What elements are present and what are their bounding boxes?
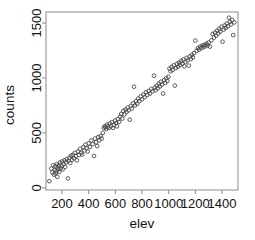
x-tick-label: 1200 bbox=[181, 196, 210, 211]
scatter-plot-figure: 200400600800100012001400 050010001500 el… bbox=[0, 0, 255, 240]
y-tick-label: 500 bbox=[30, 122, 45, 144]
y-tick-label: 0 bbox=[30, 184, 45, 191]
data-point bbox=[161, 92, 165, 96]
x-tick-label: 600 bbox=[104, 196, 126, 211]
y-axis-ticks bbox=[42, 23, 46, 188]
data-points-layer bbox=[47, 16, 236, 183]
data-point bbox=[221, 40, 225, 44]
y-axis-title: counts bbox=[2, 85, 17, 125]
data-point bbox=[173, 84, 177, 88]
data-point bbox=[92, 154, 96, 158]
data-point bbox=[47, 179, 51, 183]
x-tick-label: 800 bbox=[131, 196, 153, 211]
data-point bbox=[231, 33, 235, 37]
data-point bbox=[187, 64, 191, 68]
data-point bbox=[55, 175, 59, 179]
data-point bbox=[193, 39, 197, 43]
data-point bbox=[232, 21, 236, 25]
data-point bbox=[66, 177, 70, 181]
x-tick-label: 1000 bbox=[154, 196, 183, 211]
data-point bbox=[132, 85, 136, 89]
y-axis-tick-labels: 050010001500 bbox=[30, 9, 45, 192]
data-point bbox=[183, 65, 187, 69]
x-tick-label: 400 bbox=[78, 196, 100, 211]
y-tick-label: 1500 bbox=[30, 9, 45, 38]
data-point bbox=[95, 144, 99, 148]
x-axis-tick-labels: 200400600800100012001400 bbox=[51, 196, 236, 211]
data-point bbox=[75, 158, 79, 162]
data-point bbox=[152, 74, 156, 78]
x-tick-label: 200 bbox=[51, 196, 73, 211]
plot-canvas: 200400600800100012001400 050010001500 el… bbox=[0, 0, 255, 240]
x-tick-label: 1400 bbox=[208, 196, 237, 211]
x-axis-title: elev bbox=[130, 216, 155, 231]
x-axis-ticks bbox=[62, 190, 222, 194]
y-tick-label: 1000 bbox=[30, 63, 45, 92]
data-point bbox=[101, 131, 105, 135]
data-point bbox=[128, 118, 132, 122]
